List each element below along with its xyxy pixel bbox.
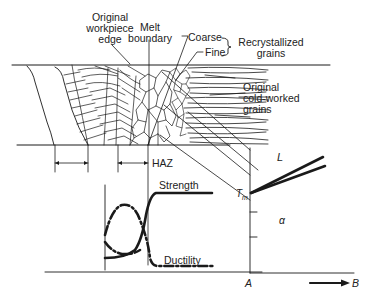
label-strength: Strength: [159, 180, 199, 191]
label-ductility: Ductility: [164, 255, 201, 266]
liquidus-line: [251, 157, 323, 193]
original-edge-line: [27, 66, 54, 145]
original-edge-leader: [112, 45, 130, 64]
label-axis-a: A: [245, 278, 252, 289]
label-fine: Fine: [205, 47, 225, 58]
fine-leader: [176, 52, 203, 80]
label-recrystallized-grains: Recrystallized grains: [233, 37, 309, 59]
strength-curve: [105, 193, 212, 258]
label-tm: Tm: [236, 188, 248, 203]
solidus-line: [251, 166, 325, 193]
label-coarse: Coarse: [188, 32, 222, 43]
weld-diagram: Original workpiece edge Melt boundary Co…: [0, 0, 369, 298]
arrow-right-icon: [341, 280, 350, 287]
label-liquid: L: [277, 152, 283, 163]
label-cold-worked-grains: Original cold-worked grains: [243, 82, 300, 115]
label-axis-b: B: [352, 278, 359, 289]
label-melt-boundary: Melt boundary: [125, 22, 175, 44]
label-haz: HAZ: [152, 158, 173, 169]
label-alpha: α: [279, 215, 285, 226]
